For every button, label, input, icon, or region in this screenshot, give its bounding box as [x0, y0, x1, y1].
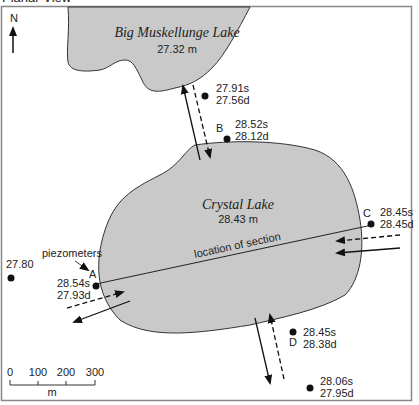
- scale-tick-300: 300: [86, 366, 104, 378]
- piezometer-deep: 27.56d: [216, 94, 250, 106]
- piezometers-callout-label: piezometers: [42, 247, 102, 259]
- piezometer-d-deep: 28.38d: [303, 338, 337, 350]
- callout-arrow-icon: [75, 261, 88, 270]
- well-value: 27.80: [6, 258, 34, 270]
- piezometer-c-shallow: 28.45s: [380, 206, 414, 218]
- piezometer-dot-c: [368, 221, 375, 228]
- piezometer-c-id: C: [363, 207, 371, 219]
- flow-arrow-dashed: [270, 315, 284, 379]
- planar-view-map: Big Muskellunge Lake 27.32 m Crystal Lak…: [0, 0, 419, 405]
- piezometer-dot-a: [93, 283, 100, 290]
- scale-tick-100: 100: [29, 366, 47, 378]
- piezometer-dot: [202, 93, 209, 100]
- scale-tick-200: 200: [57, 366, 75, 378]
- well-dot: [8, 275, 15, 282]
- piezometer-deep: 27.95d: [320, 387, 354, 399]
- big-muskellunge-lake-level: 27.32 m: [157, 43, 197, 55]
- piezometer-dot: [307, 385, 314, 392]
- piezometer-dot-d: [290, 329, 297, 336]
- north-label: N: [10, 12, 18, 24]
- flow-arrow-solid: [255, 318, 270, 383]
- scale-tick-0: 0: [7, 366, 13, 378]
- piezometer-a-id: A: [89, 268, 97, 280]
- scale-bar: 0 100 200 300 m: [7, 366, 104, 398]
- big-muskellunge-lake-name: Big Muskellunge Lake: [114, 25, 239, 40]
- piezometer-a-deep: 27.93d: [57, 289, 91, 301]
- piezometer-d-shallow: 28.45s: [303, 326, 337, 338]
- piezometer-b-shallow: 28.52s: [235, 118, 269, 130]
- piezometer-d-id: D: [289, 336, 297, 348]
- crystal-lake-shape: [99, 142, 362, 333]
- piezometer-dot-b: [224, 136, 231, 143]
- piezometer-c-deep: 28.45d: [380, 218, 414, 230]
- crystal-lake-name: Crystal Lake: [202, 197, 274, 212]
- piezometer-a-shallow: 28.54s: [57, 277, 91, 289]
- crystal-lake-level: 28.43 m: [218, 213, 258, 225]
- piezometer-b-id: B: [216, 122, 223, 134]
- piezometer-shallow: 28.06s: [320, 375, 354, 387]
- piezometer-shallow: 27.91s: [216, 82, 250, 94]
- piezometer-b-deep: 28.12d: [235, 130, 269, 142]
- scale-unit: m: [47, 386, 56, 398]
